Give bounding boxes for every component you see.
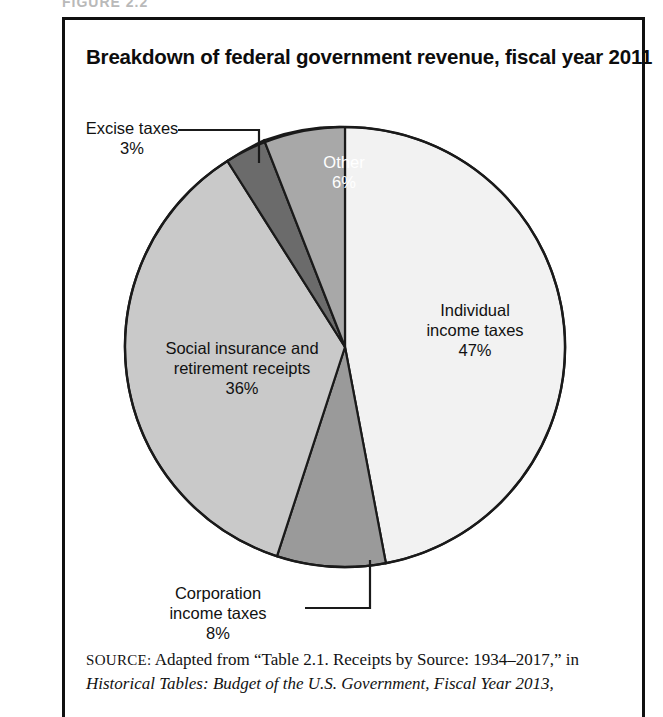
source-note-label: SOURCE: [86, 652, 151, 668]
pie-label-social-insurance-value: 36% [128, 378, 356, 398]
pie-label-social-insurance-line2: retirement receipts [128, 358, 356, 378]
source-note-line2: Historical Tables: Budget of the U.S. Go… [86, 674, 554, 693]
pie-label-corporation-income-taxes-value: 8% [130, 623, 306, 643]
pie-label-corporation-income-taxes-line2: income taxes [130, 603, 306, 623]
pie-label-corporation-income-taxes-line1: Corporation [130, 583, 306, 603]
pie-label-social-insurance-line1: Social insurance and [128, 338, 356, 358]
pie-label-excise-taxes: Excise taxes 3% [52, 118, 212, 158]
pie-label-individual-income-taxes-line2: income taxes [395, 320, 555, 340]
pie-label-corporation-income-taxes: Corporation income taxes 8% [130, 583, 306, 643]
pie-label-individual-income-taxes-value: 47% [395, 340, 555, 360]
pie-label-other: Other 6% [296, 152, 392, 192]
pie-label-excise-taxes-name: Excise taxes [52, 118, 212, 138]
pie-label-excise-taxes-value: 3% [52, 138, 212, 158]
source-note-line1: Adapted from “Table 2.1. Receipts by Sou… [155, 650, 579, 669]
pie-label-individual-income-taxes-line1: Individual [395, 300, 555, 320]
pie-label-social-insurance: Social insurance and retirement receipts… [128, 338, 356, 398]
pie-label-other-value: 6% [296, 172, 392, 192]
pie-label-other-name: Other [296, 152, 392, 172]
source-note: SOURCE: Adapted from “Table 2.1. Receipt… [86, 648, 626, 696]
pie-label-individual-income-taxes: Individual income taxes 47% [395, 300, 555, 360]
